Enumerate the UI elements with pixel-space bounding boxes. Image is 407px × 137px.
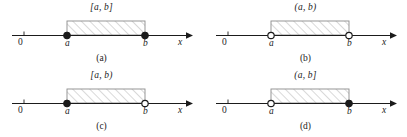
interval-figure: [a, b] 0 a b x (a) (a, b) 0 a b x (0, 0, 407, 137)
left-endpoint-label: a (65, 39, 70, 49)
panel-caption: (c) (0, 122, 203, 132)
right-endpoint-label: b (143, 107, 148, 117)
left-endpoint-label: a (65, 107, 70, 117)
axis-variable-label: x (178, 106, 182, 116)
left-endpoint-label: a (269, 107, 274, 117)
axis-arrowhead-icon (390, 32, 397, 39)
interval-notation-label: (a, b] (204, 71, 407, 81)
panel-c: [a, b) 0 a b x (c) (0, 68, 203, 136)
axis-variable-label: x (178, 38, 182, 48)
axis-arrowhead-icon (186, 100, 193, 107)
interval-region (271, 89, 349, 103)
interval-region (67, 89, 145, 103)
origin-label: 0 (222, 38, 227, 48)
panel-d: (a, b] 0 a b x (d) (204, 68, 407, 136)
panel-a: [a, b] 0 a b x (a) (0, 0, 203, 68)
right-endpoint-label: b (143, 39, 148, 49)
panel-b: (a, b) 0 a b x (b) (204, 0, 407, 68)
panel-caption: (d) (204, 122, 407, 132)
left-endpoint-label: a (269, 39, 274, 49)
interval-notation-label: [a, b) (0, 71, 203, 81)
interval-notation-label: [a, b] (0, 3, 203, 13)
panel-caption: (a) (0, 54, 203, 64)
origin-label: 0 (18, 106, 23, 116)
origin-label: 0 (222, 106, 227, 116)
panel-caption: (b) (204, 54, 407, 64)
interval-notation-label: (a, b) (204, 3, 407, 13)
axis-variable-label: x (382, 106, 386, 116)
axis-arrowhead-icon (186, 32, 193, 39)
right-endpoint-label: b (347, 39, 352, 49)
axis-variable-label: x (382, 38, 386, 48)
interval-region (67, 21, 145, 35)
axis-arrowhead-icon (390, 100, 397, 107)
origin-label: 0 (18, 38, 23, 48)
right-endpoint-label: b (347, 107, 352, 117)
interval-region (271, 21, 349, 35)
